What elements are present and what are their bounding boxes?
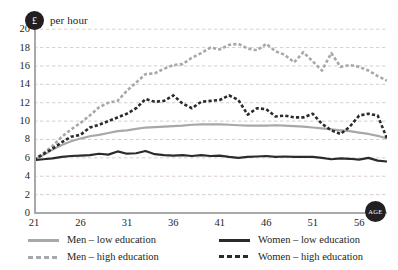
series-line (34, 95, 387, 159)
y-tick-label: 10 (8, 116, 30, 126)
legend-label: Women – low education (258, 234, 360, 246)
legend-item[interactable]: Women – low education (219, 233, 360, 247)
y-tick-label: 0 (8, 208, 30, 218)
plot-svg (34, 20, 387, 213)
x-tick-label: 56 (354, 217, 365, 228)
x-tick-label: 51 (307, 217, 318, 228)
gridlines (34, 29, 387, 194)
x-tick-label: 36 (168, 217, 179, 228)
y-tick-label: 12 (8, 98, 30, 108)
y-tick-label: 18 (8, 43, 30, 53)
y-tick-label: 4 (8, 171, 30, 181)
y-tick-label: 16 (8, 61, 30, 71)
legend-item[interactable]: Men – low education (28, 233, 156, 247)
x-tick-label: 46 (261, 217, 272, 228)
x-tick-label: 31 (122, 217, 133, 228)
x-axis-line (34, 212, 387, 214)
legend-swatch-icon (219, 255, 250, 258)
x-tick-label: 41 (215, 217, 226, 228)
legend-item[interactable]: Women – high education (219, 250, 363, 264)
y-axis-line (34, 20, 36, 213)
plot-area (34, 20, 387, 213)
wage-age-chart: £ per hour 02468101214161820 21263136414… (0, 0, 398, 270)
currency-badge-icon: £ (25, 11, 44, 30)
legend-label: Women – high education (258, 251, 363, 263)
legend-label: Men – high education (67, 251, 159, 263)
x-axis-ticks: 2126313641465156 (34, 217, 387, 231)
legend-swatch-icon (28, 239, 59, 242)
x-tick-label: 26 (75, 217, 86, 228)
y-axis-ticks: 02468101214161820 (4, 20, 30, 213)
legend-swatch-icon (28, 256, 59, 259)
age-badge-icon: AGE (365, 201, 386, 222)
y-tick-label: 14 (8, 79, 30, 89)
y-tick-label: 6 (8, 153, 30, 163)
y-tick-label: 2 (8, 190, 30, 200)
chart-legend: Men – low educationMen – high educationW… (28, 233, 390, 267)
series-line (34, 151, 387, 162)
x-tick-label: 21 (29, 217, 40, 228)
legend-label: Men – low education (67, 234, 156, 246)
legend-item[interactable]: Men – high education (28, 250, 159, 264)
legend-swatch-icon (219, 239, 250, 242)
y-tick-label: 8 (8, 134, 30, 144)
